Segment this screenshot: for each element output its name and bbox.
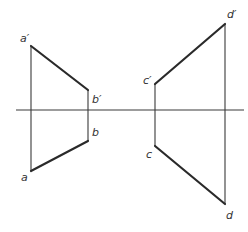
label-c-prime: c′ <box>143 74 152 87</box>
label-d: d <box>226 209 234 222</box>
segment-a-b <box>31 141 88 171</box>
label-b-prime: b′ <box>92 93 102 106</box>
label-b: b <box>92 126 99 139</box>
segment-c-prime-d-prime <box>155 24 225 84</box>
label-c: c <box>146 148 152 161</box>
label-a-prime: a′ <box>20 32 30 45</box>
projection-diagram: a′ b′ b a c′ d′ c d <box>0 0 248 232</box>
segment-c-d <box>155 146 225 204</box>
label-a: a <box>21 171 28 184</box>
label-d-prime: d′ <box>227 8 237 21</box>
segment-a-prime-b-prime <box>31 46 88 90</box>
